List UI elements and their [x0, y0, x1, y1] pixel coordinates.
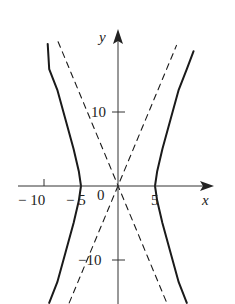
- hyperbola-branch: [48, 44, 81, 303]
- asymptote-line: [58, 42, 167, 303]
- x-tick-label-neg5: − 5: [66, 192, 86, 208]
- plot-curves: [48, 42, 194, 303]
- x-tick-label-5: 5: [151, 192, 159, 208]
- y-tick-label-10: 10: [91, 104, 106, 120]
- hyperbola-branch: [155, 51, 194, 303]
- hyperbola-plot: y x − 10 − 5 5 0 10 −10: [0, 0, 235, 304]
- x-axis-label: x: [201, 192, 209, 208]
- y-axis-label: y: [97, 29, 106, 45]
- x-tick-label-neg10: − 10: [18, 192, 45, 208]
- origin-label: 0: [97, 187, 105, 203]
- y-tick-label-neg10: −10: [78, 252, 101, 268]
